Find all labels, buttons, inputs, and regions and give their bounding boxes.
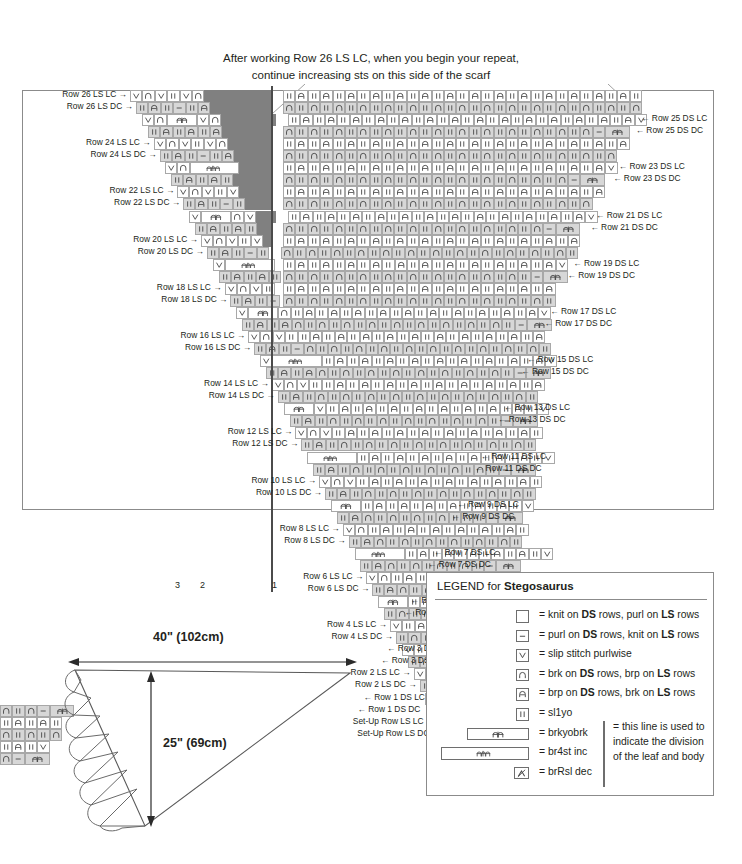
chart-cell bbox=[0, 741, 12, 753]
legend-entry-label: = purl on DS rows, knit on LS rows bbox=[539, 629, 699, 640]
legend-title: LEGEND for Stegosaurus bbox=[437, 580, 574, 592]
legend-symbol-brk-icon bbox=[516, 669, 529, 682]
legend-entry-label: = knit on DS rows, purl on LS rows bbox=[539, 609, 699, 620]
legend-symbol-sl1yo-icon bbox=[516, 708, 529, 721]
legend-entry-label: = sl1yo bbox=[539, 707, 572, 718]
legend-entry: = brk on DS rows, brp on LS rows bbox=[435, 666, 707, 685]
legend-entry: = knit on DS rows, purl on LS rows bbox=[435, 607, 707, 626]
chart-cell bbox=[0, 753, 12, 765]
legend-entry-label: = brRsl dec bbox=[539, 766, 592, 777]
chart-cell bbox=[12, 741, 24, 753]
legend-symbol-knit-icon bbox=[516, 610, 529, 623]
column-numbers: 321 bbox=[0, 86, 742, 598]
legend-title-name: Stegosaurus bbox=[504, 580, 574, 592]
legend-entry: = slip stitch purlwise bbox=[435, 646, 707, 665]
legend-box: LEGEND for Stegosaurus = knit on DS rows… bbox=[426, 572, 714, 796]
legend-symbol-brRsl-icon bbox=[514, 767, 529, 780]
chart-cell bbox=[25, 753, 50, 765]
legend-entry-label: = brkyobrk bbox=[539, 727, 588, 738]
legend-symbol-brp-icon bbox=[516, 688, 529, 701]
chart-annotation: After working Row 26 LS LC, when you beg… bbox=[0, 50, 742, 84]
chart-cell bbox=[402, 620, 414, 632]
legend-entry: = purl on DS rows, knit on LS rows bbox=[435, 627, 707, 646]
legend-entry-label: = brp on DS rows, brk on LS rows bbox=[539, 687, 695, 698]
annotation-line-1: After working Row 26 LS LC, when you beg… bbox=[0, 50, 742, 67]
chart-cell bbox=[25, 741, 37, 753]
knitting-chart: Row 26 LS LC →Row 26 LS DC →Row 24 LS LC… bbox=[0, 86, 742, 606]
legend-entry-label: = br4st inc bbox=[539, 746, 587, 757]
scarf-schematic: 40" (102cm) 25" (69cm) bbox=[50, 628, 380, 860]
chart-cell bbox=[37, 741, 49, 753]
legend-entry-label: = brk on DS rows, brp on LS rows bbox=[539, 668, 695, 679]
legend-note-text: = this line is used to indicate the divi… bbox=[613, 719, 713, 764]
schematic-height-label: 25" (69cm) bbox=[163, 736, 227, 750]
legend-symbol-brkyobrk-icon bbox=[467, 728, 529, 741]
legend-divider-rule bbox=[435, 599, 707, 600]
legend-title-prefix: LEGEND for bbox=[437, 580, 504, 592]
column-number: 1 bbox=[272, 580, 277, 590]
legend-entry: = brRsl dec bbox=[435, 764, 707, 783]
annotation-line-2: continue increasing sts on this side of … bbox=[0, 67, 742, 84]
chart-cell bbox=[12, 753, 24, 765]
legend-entry: = brp on DS rows, brk on LS rows bbox=[435, 685, 707, 704]
legend-symbol-purl-icon bbox=[516, 630, 529, 643]
legend-symbol-br4st-icon bbox=[441, 747, 529, 760]
legend-entry-label: = slip stitch purlwise bbox=[539, 648, 632, 659]
column-number: 2 bbox=[200, 580, 205, 590]
column-number: 3 bbox=[175, 580, 180, 590]
schematic-width-label: 40" (102cm) bbox=[153, 630, 224, 644]
legend-symbol-slip-icon bbox=[516, 649, 529, 662]
legend-note-divider bbox=[603, 721, 605, 787]
